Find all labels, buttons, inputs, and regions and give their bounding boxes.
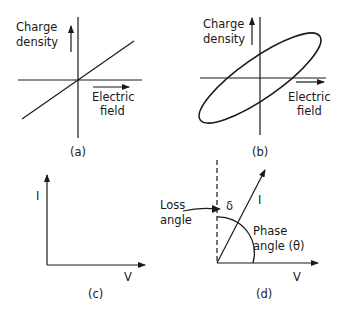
panel-b-y-label-1: Charge bbox=[203, 17, 244, 31]
panel-b-x-label-1: Electric bbox=[288, 90, 331, 104]
panel-d-voltage-label: V bbox=[293, 270, 301, 284]
panel-b-x-label-2: field bbox=[297, 104, 322, 118]
dielectric-diagram: Charge density Electric field (a) Charge… bbox=[0, 0, 347, 316]
panel-a-x-label-2: field bbox=[100, 104, 125, 118]
panel-a-x-label-1: Electric bbox=[92, 90, 135, 104]
panel-d-current-label: I bbox=[258, 193, 261, 207]
panel-a: Charge density Electric field (a) bbox=[16, 17, 142, 159]
panel-d-loss-pointer bbox=[183, 208, 217, 211]
panel-d-phase-label-1: Phase bbox=[253, 224, 287, 238]
panel-d-delta-symbol: δ bbox=[226, 199, 233, 213]
panel-c-caption: (c) bbox=[88, 287, 103, 301]
panel-a-y-label-1: Charge bbox=[16, 20, 57, 34]
panel-b-y-label-2: density bbox=[203, 32, 245, 46]
panel-d-caption: (d) bbox=[256, 287, 272, 301]
panel-b-caption: (b) bbox=[252, 145, 268, 159]
panel-d-loss-label-2: angle bbox=[160, 213, 192, 227]
panel-c-y-label: I bbox=[36, 189, 39, 203]
panel-c: I V (c) bbox=[36, 175, 145, 301]
panel-d-loss-label-1: Loss bbox=[160, 198, 185, 212]
panel-a-caption: (a) bbox=[70, 145, 86, 159]
panel-b: Charge density Electric field (b) bbox=[189, 17, 332, 159]
panel-c-x-label: V bbox=[124, 270, 132, 284]
panel-d-phase-label-2: angle (θ) bbox=[253, 239, 305, 253]
panel-a-y-label-2: density bbox=[16, 35, 58, 49]
panel-d-phase-angle-arc bbox=[217, 217, 254, 263]
panel-d: I V δ Loss angle Phase angle (θ) (d) bbox=[160, 160, 318, 301]
